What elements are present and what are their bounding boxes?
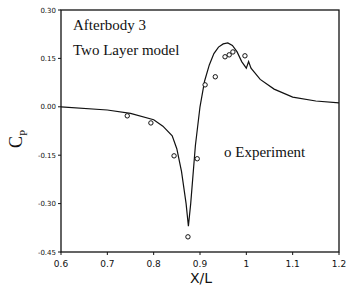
experiment-marker xyxy=(203,83,207,87)
x-tick-label: 0.6 xyxy=(54,259,69,269)
model-curve xyxy=(61,43,339,226)
y-axis-label: CP xyxy=(6,130,29,148)
x-axis-label: X/L xyxy=(190,270,212,286)
experiment-marker xyxy=(195,157,199,161)
y-tick-label: 0.15 xyxy=(40,55,56,63)
experiment-marker xyxy=(172,154,176,158)
y-tick-label: -0.15 xyxy=(38,152,56,160)
y-tick-label: 0.00 xyxy=(40,103,56,111)
x-tick-label: 1 xyxy=(243,259,249,269)
experiment-marker xyxy=(243,54,247,58)
x-tick-label: 1.1 xyxy=(286,259,300,269)
experiment-marker xyxy=(125,114,129,118)
annotation-title: Afterbody 3 xyxy=(73,17,146,34)
annotation-model: Two Layer model xyxy=(73,42,179,59)
legend-experiment: o Experiment xyxy=(224,144,305,161)
y-tick-label: -0.45 xyxy=(38,249,56,257)
x-tick-label: 0.9 xyxy=(193,259,208,269)
y-tick-label: 0.30 xyxy=(40,7,56,15)
y-tick-label: -0.30 xyxy=(38,200,56,208)
experiment-marker xyxy=(213,75,217,79)
x-tick-label: 0.8 xyxy=(147,259,162,269)
x-tick-label: 0.7 xyxy=(100,259,114,269)
experiment-marker xyxy=(149,121,153,125)
experiment-marker xyxy=(186,235,190,239)
experiment-marker xyxy=(231,50,235,54)
x-tick-label: 1.2 xyxy=(332,259,346,269)
